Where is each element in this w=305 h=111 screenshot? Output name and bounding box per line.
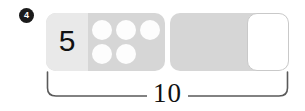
total-value: 10 [147, 78, 188, 108]
dot-icon [116, 44, 136, 64]
total-brace-group: 10 [46, 71, 289, 105]
empty-answer-cell[interactable] [247, 13, 289, 71]
dot-icon [92, 44, 112, 64]
dot-icon [116, 20, 136, 40]
dots-group [88, 13, 165, 71]
question-number-badge: 4 [19, 8, 34, 23]
bar-model: 5 [46, 13, 289, 71]
bar-part-right[interactable] [170, 13, 289, 71]
dot-icon [92, 20, 112, 40]
dot-icon [140, 20, 160, 40]
numeral-cell: 5 [46, 13, 88, 71]
numeral-value: 5 [59, 26, 76, 58]
total-label: 10 [46, 80, 289, 107]
bar-part-left[interactable]: 5 [46, 13, 165, 71]
